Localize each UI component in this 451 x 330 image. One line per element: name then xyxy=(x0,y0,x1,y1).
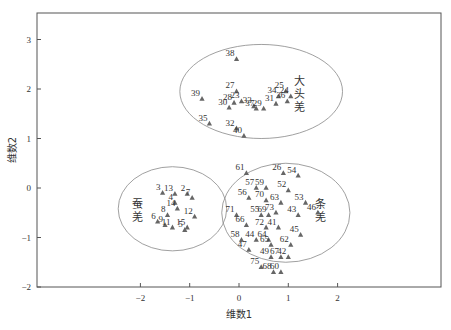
triangle-marker xyxy=(278,269,283,274)
y-tick-label: −1 xyxy=(21,233,31,243)
point-label: 73 xyxy=(265,202,275,212)
triangle-marker xyxy=(296,173,301,178)
triangle-marker xyxy=(281,170,286,175)
point-label: 63 xyxy=(270,192,280,202)
point-label: 70 xyxy=(255,189,265,199)
y-tick-label: 1 xyxy=(27,134,32,144)
triangle-marker xyxy=(185,225,190,230)
point-label: 15 xyxy=(176,217,186,227)
triangle-marker xyxy=(244,222,249,227)
point-label: 54 xyxy=(287,165,297,175)
y-tick-label: 0 xyxy=(27,183,32,193)
group-label: 头 xyxy=(294,88,305,101)
point-label: 75 xyxy=(250,256,260,266)
point-label: 11 xyxy=(162,217,171,227)
triangle-marker xyxy=(276,225,281,230)
point-label: 43 xyxy=(287,204,297,214)
y-tick-label: 2 xyxy=(27,84,32,94)
point-label: 52 xyxy=(277,179,286,189)
group-label: 大 xyxy=(294,74,305,88)
point-label: 65 xyxy=(260,234,270,244)
point-label: 12 xyxy=(184,206,193,216)
y-tick-label: 3 xyxy=(27,35,32,45)
point-label: 49 xyxy=(260,246,270,256)
triangle-marker xyxy=(298,232,303,237)
point-label: 35 xyxy=(198,113,208,123)
point-label: 72 xyxy=(255,217,264,227)
point-label: 36 xyxy=(276,90,286,100)
triangle-marker xyxy=(199,96,204,101)
triangle-marker xyxy=(285,98,290,103)
triangle-marker xyxy=(246,195,251,200)
triangle-marker xyxy=(286,187,291,192)
point-label: 56 xyxy=(238,187,248,197)
triangle-marker xyxy=(288,93,293,98)
point-label: 3 xyxy=(156,182,161,192)
triangle-marker xyxy=(227,105,232,110)
point-label: 71 xyxy=(226,204,235,214)
point-label: 7 xyxy=(186,187,191,197)
triangle-marker xyxy=(234,56,239,61)
x-tick-label: −1 xyxy=(185,293,195,303)
x-axis-title: 维数1 xyxy=(226,308,252,320)
group-ellipse xyxy=(180,44,343,138)
triangle-marker xyxy=(246,247,251,252)
point-label: 2 xyxy=(181,183,186,193)
triangle-marker xyxy=(273,210,278,215)
point-label: 42 xyxy=(277,246,286,256)
y-axis-title: 维数2 xyxy=(6,137,18,163)
y-axis: −2−10123 xyxy=(21,35,41,293)
triangle-marker xyxy=(190,195,195,200)
point-label: 38 xyxy=(226,48,236,58)
point-label: 44 xyxy=(245,229,255,239)
triangle-marker xyxy=(241,133,246,138)
x-tick-label: 1 xyxy=(286,293,291,303)
point-label: 53 xyxy=(295,192,305,202)
triangle-marker xyxy=(288,242,293,247)
group-label: 蚕 xyxy=(132,198,143,211)
point-label: 30 xyxy=(218,97,228,107)
triangle-marker xyxy=(273,101,278,106)
triangle-marker xyxy=(207,121,212,126)
point-label: 27 xyxy=(226,80,236,90)
triangle-marker xyxy=(172,191,177,196)
point-label: 61 xyxy=(235,162,244,172)
triangle-marker xyxy=(278,200,283,205)
point-label: 39 xyxy=(191,88,201,98)
group-label: 条 xyxy=(315,197,326,211)
point-label: 40 xyxy=(233,125,243,135)
point-label: 41 xyxy=(267,217,276,227)
point-label: 46 xyxy=(307,202,317,212)
triangle-marker xyxy=(264,185,269,190)
scatter-plot: −2−1012 −2−10123 大头羌蚕羌条羌 382739282333303… xyxy=(0,0,451,330)
point-label: 31 xyxy=(265,93,274,103)
x-tick-label: 2 xyxy=(335,293,340,303)
point-label: 47 xyxy=(238,239,248,249)
y-tick-label: −2 xyxy=(21,282,31,292)
x-axis: −2−1012 xyxy=(136,283,340,303)
x-tick-label: −2 xyxy=(136,293,146,303)
point-label: 14 xyxy=(166,198,176,208)
triangle-marker xyxy=(286,254,291,259)
triangle-marker xyxy=(170,225,175,230)
x-tick-label: 0 xyxy=(237,293,242,303)
point-label: 23 xyxy=(230,90,240,100)
point-label: 8 xyxy=(161,204,166,214)
point-label: 58 xyxy=(230,229,240,239)
triangle-marker xyxy=(175,206,180,211)
point-label: 66 xyxy=(235,214,245,224)
point-label: 45 xyxy=(290,224,300,234)
point-label: 29 xyxy=(253,98,263,108)
point-label: 6 xyxy=(151,211,156,221)
triangle-marker xyxy=(231,100,236,105)
point-label: 59 xyxy=(255,177,265,187)
point-label: 62 xyxy=(280,234,289,244)
group-label: 羌 xyxy=(294,101,305,114)
point-label: 60 xyxy=(270,261,280,271)
triangle-marker xyxy=(192,214,197,219)
triangle-marker xyxy=(261,106,266,111)
point-label: 26 xyxy=(272,162,282,172)
point-label: 57 xyxy=(245,177,255,187)
group-label: 羌 xyxy=(132,211,143,224)
triangle-marker xyxy=(296,212,301,217)
